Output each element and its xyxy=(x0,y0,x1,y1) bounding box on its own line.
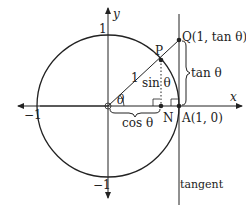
label-P: P xyxy=(155,44,163,58)
label-sin: sin θ xyxy=(142,76,171,90)
y-tick-neg1: −1 xyxy=(93,178,111,192)
point-N xyxy=(159,104,164,109)
label-Q: Q(1, tan θ) xyxy=(182,30,246,44)
label-tangent: tangent xyxy=(180,178,224,191)
label-tan: tan θ xyxy=(191,66,222,80)
y-axis-label: y xyxy=(112,7,120,21)
brace-tan xyxy=(182,41,190,105)
label-radius: 1 xyxy=(131,71,139,85)
label-angle: θ xyxy=(117,93,125,107)
point-Q xyxy=(177,38,182,43)
label-A: A(1, 0) xyxy=(181,111,223,125)
label-N: N xyxy=(163,111,174,125)
right-angle-N xyxy=(153,99,160,106)
right-angle-A xyxy=(171,99,178,106)
x-axis-label: x xyxy=(230,90,237,104)
y-tick-1: 1 xyxy=(99,22,107,36)
point-A xyxy=(177,104,182,109)
point-P xyxy=(159,58,164,63)
x-tick-neg1: −1 xyxy=(24,108,42,122)
label-cos: cos θ xyxy=(122,116,153,130)
unit-circle-diagram: y x 1 −1 −1 P Q(1, tan θ) N A(1, 0) 1 θ … xyxy=(0,0,246,214)
